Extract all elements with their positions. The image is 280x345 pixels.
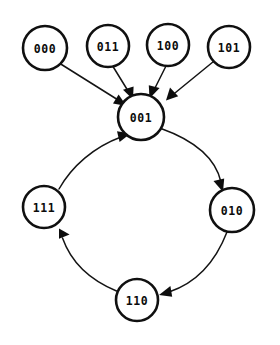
edge-011-to-001 — [113, 67, 134, 100]
node-outline — [23, 186, 65, 228]
node-outline — [118, 94, 164, 140]
edge-line — [62, 65, 121, 102]
edge-line — [169, 232, 227, 292]
edge-101-to-001 — [166, 62, 214, 101]
node-outline — [23, 26, 67, 70]
node-outline — [147, 24, 189, 66]
arrowhead-icon — [59, 229, 70, 239]
node-outline — [87, 25, 129, 67]
diagram-canvas: 000 011 100 101 001 111 010 110 — [0, 0, 280, 345]
arrowhead-icon — [159, 286, 172, 297]
node-001[interactable]: 001 — [118, 94, 164, 140]
edge-line — [161, 129, 221, 183]
node-000[interactable]: 000 — [23, 26, 67, 70]
edge-010-to-110 — [159, 232, 227, 297]
edge-110-to-111 — [59, 229, 117, 292]
edge-line — [59, 137, 121, 189]
node-outline — [210, 188, 254, 232]
node-011[interactable]: 011 — [87, 25, 129, 67]
edge-line — [63, 238, 117, 291]
node-110[interactable]: 110 — [116, 279, 158, 321]
arrowhead-icon — [166, 88, 178, 101]
node-outline — [116, 279, 158, 321]
edge-line — [173, 62, 214, 96]
edge-111-to-001 — [59, 131, 131, 189]
state-transition-diagram: 000 011 100 101 001 111 010 110 — [0, 0, 280, 345]
node-111[interactable]: 111 — [23, 186, 65, 228]
node-100[interactable]: 100 — [147, 24, 189, 66]
node-outline — [208, 26, 250, 68]
node-010[interactable]: 010 — [210, 188, 254, 232]
edge-001-to-010 — [161, 129, 224, 193]
edge-100-to-001 — [149, 66, 166, 99]
edge-000-to-001 — [62, 65, 127, 107]
node-101[interactable]: 101 — [208, 26, 250, 68]
edge-line — [113, 67, 129, 93]
